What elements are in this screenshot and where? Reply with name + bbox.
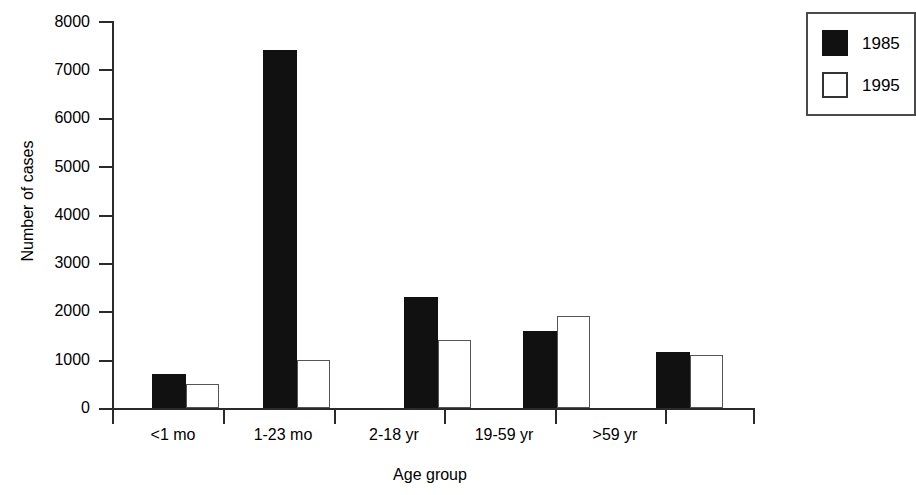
bar-1995-lt1mo	[186, 384, 219, 408]
x-axis-line	[112, 408, 755, 410]
y-tick-mark	[99, 408, 113, 410]
bar-1985-19-59yr	[523, 331, 557, 408]
bar-1985-2-18yr	[404, 297, 438, 408]
x-tick-mark	[665, 410, 667, 424]
bar-1995-2-18yr	[438, 340, 471, 408]
bar-1995-gt59yr	[690, 355, 723, 408]
bar-1985-lt1mo	[152, 374, 186, 408]
x-tick-label-group-3: 19-59 yr	[449, 426, 559, 444]
bar-1995-19-59yr	[557, 316, 590, 408]
legend-entry-1995: 1995	[822, 72, 900, 98]
x-tick-mark	[753, 410, 755, 424]
legend-swatch-open-square-icon	[822, 72, 848, 98]
bar-1995-1-23mo	[297, 360, 330, 408]
x-axis-label: Age group	[330, 466, 530, 484]
x-tick-mark	[444, 410, 446, 424]
x-tick-mark	[334, 410, 336, 424]
bar-1985-1-23mo	[263, 50, 297, 408]
x-tick-label-group-2: 2-18 yr	[339, 426, 449, 444]
chart-legend: 1985 1995	[806, 12, 916, 116]
legend-label-1985: 1985	[862, 35, 900, 52]
x-tick-label-group-1: 1-23 mo	[228, 426, 338, 444]
x-tick-label-group-4: >59 yr	[560, 426, 670, 444]
x-tick-label-group-0: <1 mo	[118, 426, 228, 444]
legend-label-1995: 1995	[862, 77, 900, 94]
bars-layer	[0, 0, 899, 408]
x-tick-mark	[112, 410, 114, 424]
x-tick-mark	[555, 410, 557, 424]
bar-1985-gt59yr	[656, 352, 690, 408]
legend-entry-1985: 1985	[822, 30, 900, 56]
legend-swatch-filled-square-icon	[822, 30, 848, 56]
x-tick-mark	[223, 410, 225, 424]
